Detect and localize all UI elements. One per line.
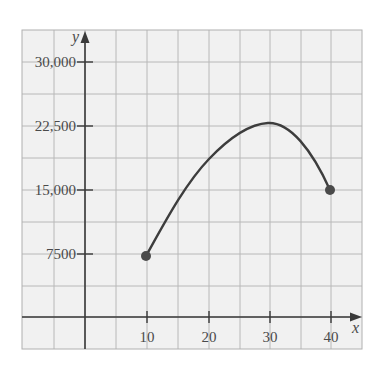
- line-chart: x y 10 20 30 40 30,000 22,500 15,000 750…: [0, 0, 388, 367]
- x-tick-label: 10: [140, 329, 155, 345]
- y-tick-label: 22,500: [35, 118, 76, 134]
- x-tick-label: 40: [324, 329, 339, 345]
- x-tick-label: 30: [263, 329, 278, 345]
- y-tick-label: 30,000: [35, 54, 76, 70]
- y-tick-label: 15,000: [35, 182, 76, 198]
- start-point-dot: [141, 251, 151, 261]
- y-tick-label: 7500: [46, 246, 76, 262]
- x-axis-label: x: [351, 319, 359, 336]
- end-point-dot: [325, 185, 335, 195]
- y-axis-label: y: [70, 28, 80, 46]
- x-tick-label: 20: [202, 329, 217, 345]
